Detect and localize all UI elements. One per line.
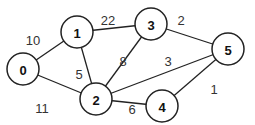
edge-weight-1-3: 22 [101, 13, 115, 28]
edge-weight-3-5: 2 [177, 13, 184, 28]
node-label: 4 [158, 100, 166, 115]
edge-weight-4-5: 1 [210, 82, 217, 97]
node-label: 3 [147, 18, 154, 33]
node-1: 1 [61, 16, 93, 48]
graph-svg: 101152283621 012345 [0, 0, 255, 125]
node-4: 4 [146, 90, 178, 122]
edge-weight-1-2: 5 [75, 67, 82, 82]
edge-weight-2-3: 8 [119, 54, 126, 69]
node-label: 0 [19, 63, 26, 78]
weighted-graph-diagram: 101152283621 012345 [0, 0, 255, 125]
edge-weight-2-5: 3 [164, 54, 171, 69]
node-label: 1 [73, 26, 80, 41]
edge-weight-0-2: 11 [35, 101, 49, 116]
node-2: 2 [80, 83, 112, 115]
node-0: 0 [7, 53, 39, 85]
edge-weight-2-4: 6 [128, 102, 135, 117]
node-3: 3 [135, 8, 167, 40]
node-label: 5 [224, 43, 231, 58]
node-5: 5 [212, 33, 244, 65]
node-label: 2 [92, 93, 99, 108]
edge-weight-0-1: 10 [26, 33, 40, 48]
